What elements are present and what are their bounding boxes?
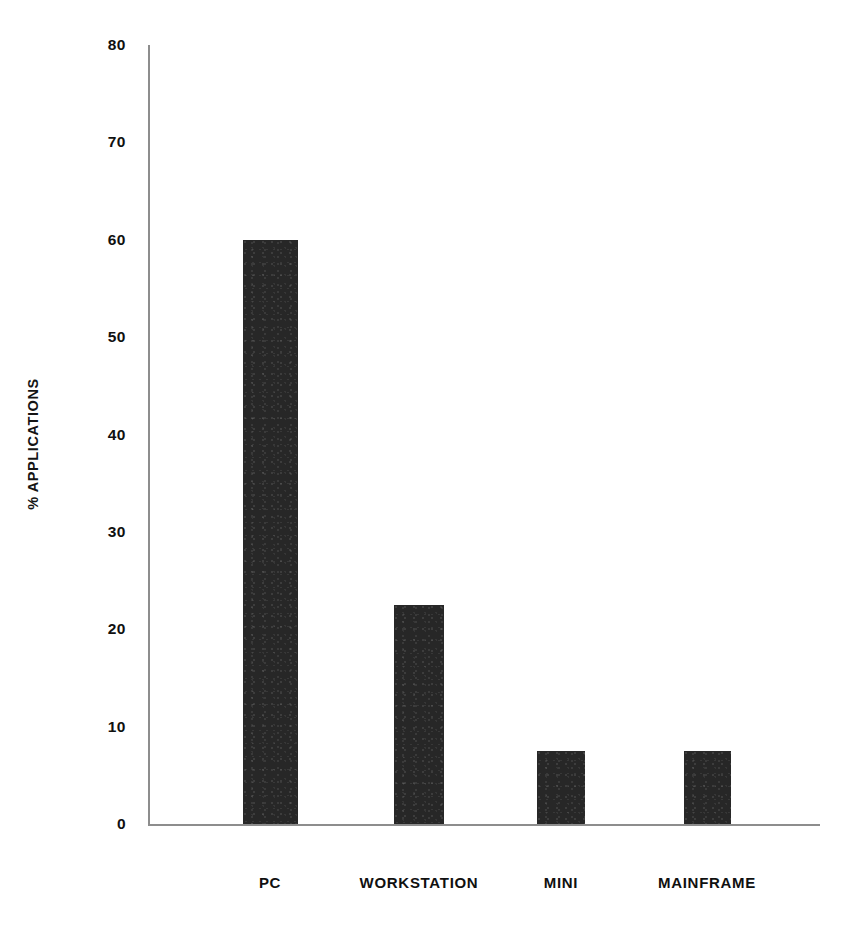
bar-chart: % APPLICATIONS 80 70 60 50 40 30 20 10 0… xyxy=(0,0,860,937)
bar-workstation xyxy=(394,605,444,824)
y-tick-label-60: 60 xyxy=(54,231,126,249)
y-tick-label-0: 0 xyxy=(54,815,126,833)
y-axis-title: % APPLICATIONS xyxy=(25,364,41,524)
bar-mainframe xyxy=(684,751,731,824)
x-tick-label-pc: PC xyxy=(259,874,281,891)
plot-area: 80 70 60 50 40 30 20 10 0 xyxy=(148,45,820,824)
bar-pc xyxy=(243,240,298,824)
y-tick-label-20: 20 xyxy=(54,620,126,638)
y-tick-label-10: 10 xyxy=(54,718,126,736)
x-tick-label-mini: MINI xyxy=(544,874,578,891)
y-axis-line xyxy=(148,45,150,824)
bar-mini xyxy=(537,751,585,824)
y-tick-label-70: 70 xyxy=(54,133,126,151)
y-tick-label-30: 30 xyxy=(54,523,126,541)
x-tick-label-mainframe: MAINFRAME xyxy=(658,874,756,891)
x-tick-label-workstation: WORKSTATION xyxy=(360,874,479,891)
y-tick-label-50: 50 xyxy=(54,328,126,346)
x-axis-line xyxy=(148,824,820,826)
y-tick-label-40: 40 xyxy=(54,426,126,444)
y-tick-label-80: 80 xyxy=(54,36,126,54)
